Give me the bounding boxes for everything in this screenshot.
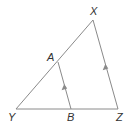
triangle-diagram: X A Y B Z — [0, 0, 132, 128]
label-z: Z — [115, 111, 124, 123]
label-b: B — [67, 111, 74, 123]
parallel-arrow-icon-ab — [62, 84, 68, 90]
label-a: A — [46, 51, 54, 63]
parallel-arrow-icon-xz — [103, 64, 109, 70]
label-y: Y — [8, 111, 16, 123]
diagram-canvas: X A Y B Z — [0, 0, 132, 128]
label-x: X — [89, 5, 98, 17]
segment-xy — [16, 20, 93, 109]
